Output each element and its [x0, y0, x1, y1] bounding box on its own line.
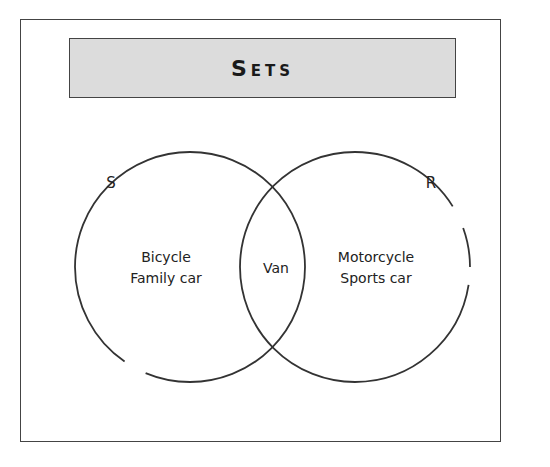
- set-r-items: Motorcycle Sports car: [338, 247, 414, 289]
- venn-diagram: [0, 0, 550, 467]
- set-s-label: S: [106, 174, 116, 192]
- set-r-label: R: [426, 174, 436, 192]
- set-item: Family car: [130, 268, 202, 289]
- set-item: Sports car: [338, 268, 414, 289]
- set-s-items: Bicycle Family car: [130, 247, 202, 289]
- set-item: Bicycle: [130, 247, 202, 268]
- intersection-items: Van: [263, 258, 289, 279]
- set-item: Motorcycle: [338, 247, 414, 268]
- set-item: Van: [263, 258, 289, 279]
